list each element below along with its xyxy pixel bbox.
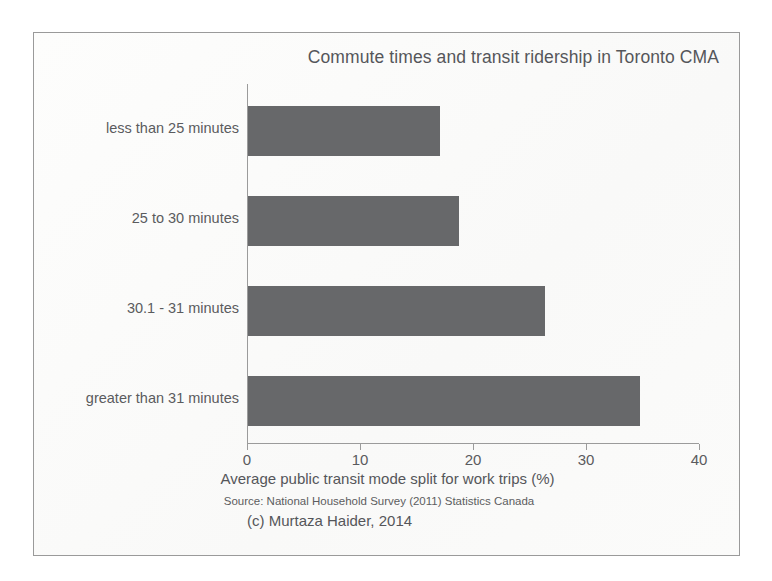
x-tick-mark	[360, 444, 361, 450]
bar	[248, 106, 440, 156]
x-tick-mark	[699, 444, 700, 450]
x-axis-title: Average public transit mode split for wo…	[34, 470, 741, 487]
bar	[248, 286, 545, 336]
figure-inner: Commute times and transit ridership in T…	[34, 33, 739, 555]
y-axis-label: less than 25 minutes	[29, 120, 239, 136]
y-axis-label: 25 to 30 minutes	[29, 210, 239, 226]
x-tick-mark	[473, 444, 474, 450]
copyright-note: (c) Murtaza Haider, 2014	[247, 512, 412, 529]
chart-title: Commute times and transit ridership in T…	[34, 47, 719, 68]
plot-area	[247, 84, 699, 444]
x-tick-label: 10	[352, 451, 369, 468]
x-tick-label: 30	[578, 451, 595, 468]
source-note: Source: National Household Survey (2011)…	[34, 495, 724, 507]
y-axis-label: greater than 31 minutes	[29, 390, 239, 406]
figure-frame: Commute times and transit ridership in T…	[33, 32, 740, 556]
x-tick-label: 20	[465, 451, 482, 468]
x-tick-mark	[247, 444, 248, 450]
x-tick-label: 0	[243, 451, 251, 468]
y-axis-label: 30.1 - 31 minutes	[29, 300, 239, 316]
x-tick-mark	[586, 444, 587, 450]
x-tick-label: 40	[691, 451, 708, 468]
bar	[248, 376, 640, 426]
bar	[248, 196, 459, 246]
y-axis-category-labels: less than 25 minutes25 to 30 minutes30.1…	[34, 84, 239, 444]
